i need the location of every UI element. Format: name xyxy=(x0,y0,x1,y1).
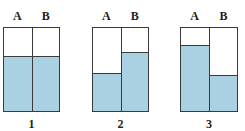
partition xyxy=(209,28,210,111)
water-level-b xyxy=(32,56,59,111)
water-level-a xyxy=(93,73,121,111)
compartment-b-label: B xyxy=(131,10,139,22)
compartment-a xyxy=(4,28,32,111)
compartment-b xyxy=(32,28,59,111)
compartment-b-label: B xyxy=(42,10,50,22)
partition xyxy=(121,28,122,111)
compartment-a-label: A xyxy=(13,10,22,22)
container-number: 1 xyxy=(29,118,35,130)
water-level-b xyxy=(121,52,148,111)
container-number: 2 xyxy=(118,118,124,130)
water-level-b xyxy=(209,75,237,111)
water-level-a xyxy=(181,45,209,111)
container-number: 3 xyxy=(206,118,212,130)
compartment-b xyxy=(121,28,148,111)
compartment-b xyxy=(209,28,237,111)
compartment-a xyxy=(93,28,121,111)
container-2 xyxy=(92,27,149,112)
container-3 xyxy=(180,27,238,112)
compartment-a-label: A xyxy=(102,10,111,22)
compartment-b-label: B xyxy=(219,10,227,22)
compartment-a-label: A xyxy=(190,10,199,22)
partition xyxy=(32,28,33,111)
water-level-a xyxy=(4,56,32,111)
container-1 xyxy=(3,27,60,112)
compartment-a xyxy=(181,28,209,111)
